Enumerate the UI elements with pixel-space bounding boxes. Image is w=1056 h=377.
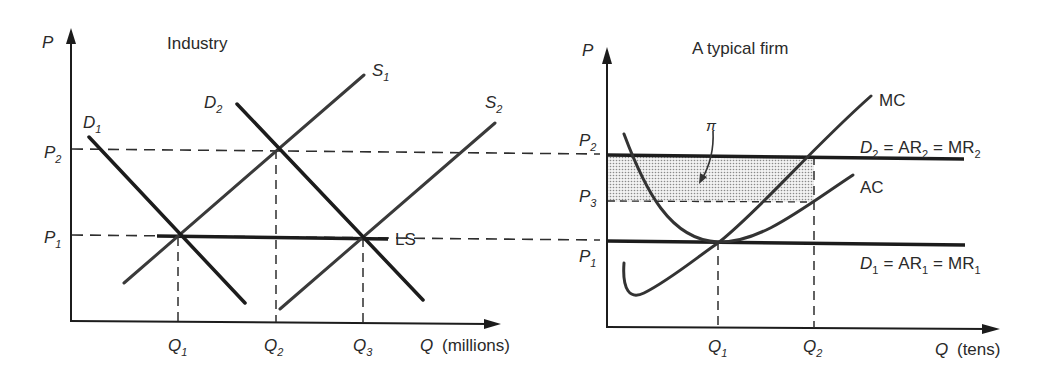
firm-price-tick-p1: P1	[579, 247, 596, 269]
firm-quantity-axis	[606, 327, 990, 329]
label-mc: MC	[879, 91, 905, 110]
demand-line-d1-ar1-mr1	[607, 241, 965, 245]
industry-x-arrow-icon	[484, 319, 501, 329]
industry-panel: Industry P Q (millions) P2 P1 Q1 Q2	[42, 28, 600, 358]
profit-area	[607, 155, 814, 202]
long-run-supply-line	[157, 236, 388, 239]
firm-quantity-tick-q2: Q2	[803, 337, 822, 359]
demand-curve-d1	[89, 137, 245, 303]
firm-title: A typical firm	[692, 39, 788, 58]
supply-curve-s1	[124, 75, 364, 283]
firm-y-axis-label: P	[582, 41, 594, 60]
industry-quantity-tick-q2: Q2	[264, 336, 283, 358]
firm-panel: A typical firm P Q (tens) π P2 P3	[579, 39, 1000, 359]
label-d1-ar1-mr1: D1=AR1=MR1	[860, 254, 981, 276]
industry-quantity-tick-q3: Q3	[353, 336, 373, 358]
firm-y-arrow-icon	[602, 47, 612, 64]
label-s2: S2	[485, 93, 502, 115]
industry-price-tick-p2: P2	[44, 143, 61, 165]
firm-x-axis-label: Q (tens)	[935, 340, 1000, 359]
industry-quantity-tick-q1: Q1	[168, 336, 187, 358]
label-d1: D1	[83, 113, 101, 135]
demand-curve-d2	[237, 104, 423, 300]
profit-label: π	[706, 117, 717, 134]
firm-price-tick-p3: P3	[579, 187, 597, 209]
label-s1: S1	[372, 61, 389, 83]
industry-title: Industry	[167, 34, 228, 53]
industry-price-tick-p1: P1	[44, 228, 61, 250]
firm-price-tick-p2: P2	[579, 131, 596, 153]
industry-quantity-axis	[70, 321, 490, 324]
perfect-competition-diagram: Industry P Q (millions) P2 P1 Q1 Q2	[0, 0, 1056, 377]
industry-y-axis-label: P	[42, 33, 54, 52]
industry-y-arrow-icon	[66, 28, 76, 44]
label-d2-ar2-mr2: D2=AR2=MR2	[860, 138, 981, 160]
label-d2: D2	[204, 93, 222, 115]
label-ac: AC	[860, 178, 884, 197]
p2-guide-line	[72, 149, 600, 154]
firm-quantity-tick-q1: Q1	[708, 337, 727, 359]
firm-x-arrow-icon	[982, 324, 1000, 334]
label-ls: LS	[395, 230, 416, 249]
industry-x-axis-label: Q (millions)	[420, 336, 510, 355]
